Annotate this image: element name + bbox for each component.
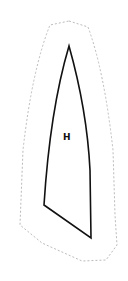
region-shape bbox=[44, 46, 91, 238]
region-label: H bbox=[63, 133, 71, 142]
